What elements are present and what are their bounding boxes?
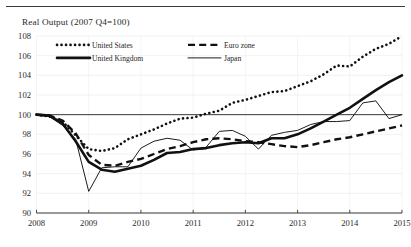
x-tick-label: 2013 [289, 218, 306, 228]
y-tick-label: 94 [22, 169, 31, 179]
y-tick-label: 96 [22, 149, 31, 159]
x-axis-tick-labels: 20082009201020112012201320142015 [28, 218, 411, 228]
series-line-euro-zone [37, 115, 403, 166]
y-tick-label: 104 [18, 70, 32, 80]
x-tick-label: 2015 [393, 218, 410, 228]
legend-label-united-states: United States [92, 41, 133, 50]
y-tick-label: 100 [18, 110, 31, 120]
x-tick-label: 2014 [341, 218, 359, 228]
y-tick-label: 92 [22, 188, 31, 198]
y-tick-label: 98 [22, 129, 31, 139]
y-axis-tick-labels: 9092949698100102104106108 [18, 31, 32, 218]
chart-figure: Real Output (2007 Q4=100) 90929496981001… [0, 0, 411, 247]
axis-lines-group [37, 210, 403, 213]
y-tick-label: 102 [18, 90, 31, 100]
legend-label-euro-zone: Euro zone [224, 41, 256, 50]
x-tick-label: 2009 [80, 218, 97, 228]
x-tick-label: 2008 [28, 218, 45, 228]
x-tick-label: 2011 [185, 218, 202, 228]
legend-label-japan: Japan [224, 54, 241, 63]
line-chart-plot: 9092949698100102104106108 20082009201020… [0, 0, 411, 247]
y-tick-label: 106 [18, 51, 32, 61]
y-tick-label: 108 [18, 31, 31, 41]
legend-label-united-kingdom: United Kingdom [92, 54, 143, 63]
y-tick-label: 90 [22, 208, 31, 218]
x-tick-label: 2010 [132, 218, 149, 228]
x-tick-label: 2012 [237, 218, 254, 228]
chart-legend: United StatesEuro zoneUnited KingdomJapa… [57, 41, 256, 63]
